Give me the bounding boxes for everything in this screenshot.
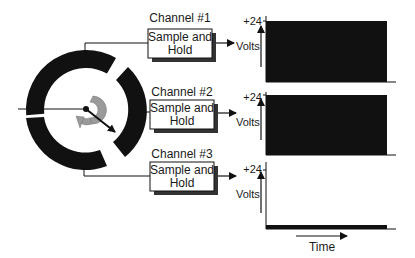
channel-3: Channel #3 Sample and Hold +24 Volts <box>150 147 396 229</box>
chart-2-ymax-label: +24 <box>243 91 262 103</box>
channel-2-box-line2: Hold <box>170 114 195 128</box>
chart-2-signal-high <box>266 95 387 155</box>
channel-2: Channel #2 Sample and Hold +24 Volts <box>150 85 396 155</box>
chart-1-ylabel: Volts <box>236 40 260 52</box>
chart-2-ylabel: Volts <box>236 116 260 128</box>
chart-3-signal-low <box>266 225 387 229</box>
chart-3-ylabel: Volts <box>236 188 260 200</box>
channel-2-box-line1: Sample and <box>150 101 214 115</box>
channel-3-title: Channel #3 <box>151 147 213 161</box>
channel-1-box-line2: Hold <box>168 43 193 57</box>
chart-1-signal-high <box>266 21 387 82</box>
channel-2-title: Channel #2 <box>151 85 213 99</box>
channel-1: Channel #1 Sample and Hold +24 Volts <box>148 11 396 82</box>
sampling-diagram: Channel #1 Sample and Hold +24 Volts Cha… <box>0 0 415 258</box>
chart-3-ymax-label: +24 <box>243 163 262 175</box>
channel-3-box-line1: Sample and <box>150 163 214 177</box>
channel-1-box-line1: Sample and <box>148 30 212 44</box>
channel-1-title: Channel #1 <box>149 11 211 25</box>
channel-3-box-line2: Hold <box>170 176 195 190</box>
time-axis-label: Time <box>309 240 336 254</box>
chart-1-ymax-label: +24 <box>243 15 262 27</box>
ring-segment-3 <box>26 117 107 170</box>
